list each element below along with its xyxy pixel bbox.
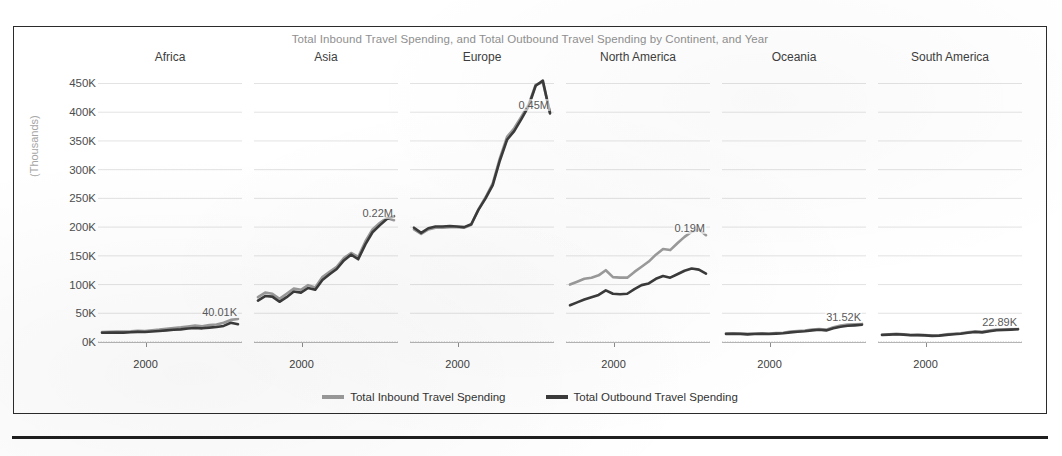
legend-label: Total Inbound Travel Spending	[350, 391, 505, 403]
y-axis-ticks: 0K50K100K150K200K250K300K350K400K450K	[44, 72, 96, 342]
y-axis-tick-label: 100K	[44, 279, 96, 291]
panel-south-america: South America22.89K2000	[878, 72, 1022, 342]
y-axis-tick-label: 150K	[44, 250, 96, 262]
series-line	[570, 268, 706, 305]
x-axis-line	[410, 342, 554, 343]
legend-item[interactable]: Total Outbound Travel Spending	[546, 391, 738, 403]
legend-swatch-icon	[322, 395, 344, 399]
panel-plot-area	[98, 72, 242, 342]
series-value-label: 0.45M	[517, 99, 550, 111]
series-value-label: 0.22M	[361, 207, 394, 219]
x-axis-line	[254, 342, 398, 343]
chart-legend: Total Inbound Travel SpendingTotal Outbo…	[14, 391, 1046, 403]
x-axis-tick-label: 2000	[601, 358, 625, 370]
series-value-label: 40.01K	[201, 306, 238, 318]
panel-title: North America	[566, 50, 710, 64]
series-line	[570, 229, 706, 284]
panel-plot-area	[566, 72, 710, 342]
y-axis-tick-label: 200K	[44, 221, 96, 233]
y-axis-tick-label: 300K	[44, 164, 96, 176]
x-axis-line	[878, 342, 1022, 343]
y-axis-title: (Thousands)	[28, 115, 40, 177]
series-line	[882, 329, 1018, 336]
panel-plot-area	[410, 72, 554, 342]
panel-title: Europe	[410, 50, 554, 64]
page-bottom-rule	[12, 436, 1048, 439]
panel-asia: Asia0.22M2000	[254, 72, 398, 342]
y-axis-tick-label: 0K	[44, 336, 96, 348]
x-axis-line	[98, 342, 242, 343]
y-axis-tick-label: 450K	[44, 77, 96, 89]
panel-title: Oceania	[722, 50, 866, 64]
x-axis-tick-label: 2000	[757, 358, 781, 370]
series-value-label: 22.89K	[981, 316, 1018, 328]
x-axis-tick-label: 2000	[913, 358, 937, 370]
x-axis-line	[566, 342, 710, 343]
panel-plot-area	[722, 72, 866, 342]
y-axis-tick-label: 50K	[44, 307, 96, 319]
x-axis-tick-label: 2000	[133, 358, 157, 370]
legend-item[interactable]: Total Inbound Travel Spending	[322, 391, 505, 403]
y-axis-tick-label: 400K	[44, 106, 96, 118]
y-axis-tick-label: 250K	[44, 192, 96, 204]
panel-europe: Europe0.45M2000	[410, 72, 554, 342]
chart-title: Total Inbound Travel Spending, and Total…	[14, 33, 1046, 45]
panel-title: South America	[878, 50, 1022, 64]
x-axis-line	[722, 342, 866, 343]
legend-swatch-icon	[546, 395, 568, 399]
panel-plot-area	[878, 72, 1022, 342]
series-value-label: 0.19M	[673, 222, 706, 234]
panel-africa: Africa40.01K2000	[98, 72, 242, 342]
legend-label: Total Outbound Travel Spending	[574, 391, 738, 403]
x-axis-tick-label: 2000	[445, 358, 469, 370]
panel-oceania: Oceania31.52K2000	[722, 72, 866, 342]
chart-container: Total Inbound Travel Spending, and Total…	[13, 26, 1047, 414]
panel-north-america: North America0.19M2000	[566, 72, 710, 342]
panel-title: Africa	[98, 50, 242, 64]
y-axis-tick-label: 350K	[44, 135, 96, 147]
x-axis-tick-label: 2000	[289, 358, 313, 370]
series-value-label: 31.52K	[825, 311, 862, 323]
panel-title: Asia	[254, 50, 398, 64]
